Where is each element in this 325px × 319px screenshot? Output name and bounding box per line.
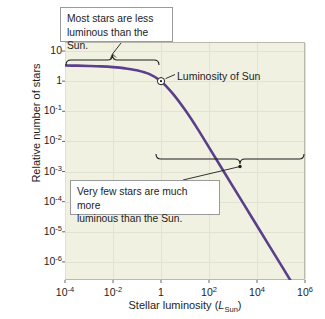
very-few-stars-leader-dot [238, 165, 241, 168]
sun-marker-leader-line [166, 75, 176, 79]
most-stars-callout: Most stars are less luminous than the Su… [60, 7, 173, 42]
sun-marker-dot [160, 80, 162, 82]
very-few-stars-bracket [156, 154, 304, 164]
very-few-stars-leader-line [183, 167, 240, 181]
chart-figure: 10110-110-210-310-410-510-6 10-410-21102… [0, 0, 325, 319]
most-stars-bracket [66, 55, 159, 65]
sun-marker-label: Luminosity of Sun [177, 70, 260, 82]
chart-vector-layer [0, 0, 325, 319]
very-few-stars-callout: Very few stars are much more luminous th… [70, 180, 220, 215]
most-stars-leader-line [113, 43, 122, 54]
